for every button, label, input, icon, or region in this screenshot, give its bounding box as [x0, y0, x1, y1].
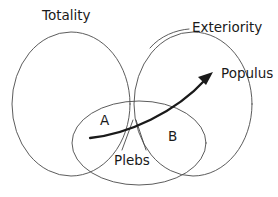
venn-diagram-svg: Totality Exteriority Populus A B Plebs: [0, 0, 278, 197]
exteriority-leader-line: [150, 29, 189, 48]
label-region-a: A: [100, 112, 110, 128]
label-exteriority: Exteriority: [192, 19, 262, 35]
populus-ellipse: [72, 101, 206, 185]
label-totality: Totality: [41, 7, 91, 23]
label-plebs: Plebs: [114, 152, 150, 168]
label-region-b: B: [168, 128, 177, 144]
venn-diagram-canvas: Totality Exteriority Populus A B Plebs: [0, 0, 278, 197]
exteriority-ellipse: [134, 32, 252, 176]
populus-arrow-head: [198, 72, 213, 85]
populus-arrow-shaft: [90, 79, 206, 138]
label-populus: Populus: [221, 65, 273, 81]
